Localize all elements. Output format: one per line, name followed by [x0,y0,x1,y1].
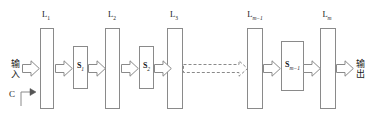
block-arrow-icon-input-to-L1 [22,60,40,77]
stage-box-S2: S2 [139,46,154,89]
network-architecture-diagram: L1 L2 L3 Lm−1 Lm S1 S2 Sm−1 输 入 输 出 C [0,0,376,121]
input-label-line1: 输 [10,59,21,69]
input-label: 输 入 [10,59,21,79]
stage-box-Sm-1: Sm−1 [281,41,304,91]
block-arrow-icon-Sm-1-to-Lm [303,60,321,77]
layer-label-L3: L3 [170,10,178,21]
layer-box-Lm-1 [247,28,263,109]
layer-label-Lm-1-subscript: m−1 [252,15,262,21]
layer-box-L2 [105,28,120,109]
output-label-line1: 输 [355,59,366,69]
stage-label-S1: S1 [77,62,84,72]
block-arrow-icon-Lm-to-output [336,60,354,77]
layer-label-L1: L1 [42,10,50,21]
layer-label-Lm: Lm [322,10,331,21]
output-label: 输 出 [355,59,366,79]
layer-label-L2-subscript: 2 [113,15,116,21]
block-arrow-icon-L1-to-S1 [55,60,73,77]
stage-label-S2: S2 [143,62,150,72]
layer-label-Lm-1: Lm−1 [247,10,263,21]
control-arrow-icon [0,80,46,110]
block-arrow-icon-Lm-1-to-Sm-1 [263,60,281,77]
dashed-block-arrow-icon-L3-to-Lm-1 [183,60,249,77]
layer-label-L1-subscript: 1 [47,15,50,21]
block-arrow-icon-S1-to-L2 [88,60,106,77]
layer-label-L2: L2 [108,10,116,21]
layer-box-Lm [320,28,336,109]
layer-label-Lm-subscript: m [328,15,332,21]
block-arrow-icon-L2-to-S2 [121,60,139,77]
stage-label-Sm-1: Sm−1 [285,61,300,71]
stage-box-S1: S1 [73,46,88,89]
block-arrow-icon-S2-to-L3 [154,60,172,77]
output-label-line2: 出 [355,69,366,79]
layer-label-L3-subscript: 3 [175,15,178,21]
input-label-line2: 入 [10,69,21,79]
